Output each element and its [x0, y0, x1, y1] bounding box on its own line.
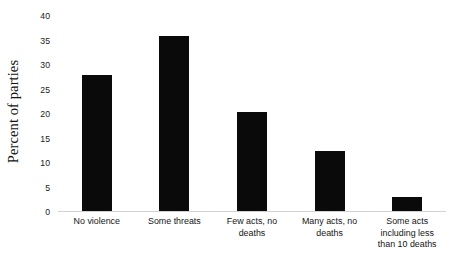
- bar[interactable]: [237, 112, 267, 212]
- bar-slot: [58, 16, 136, 212]
- x-axis-category-label: Some actsincluding lessthan 10 deaths: [368, 216, 446, 251]
- x-axis-category-label-line: Some threats: [136, 216, 214, 228]
- x-axis-category-label-line: Few acts, no: [213, 216, 291, 228]
- y-axis-tick-label: 40: [40, 11, 50, 21]
- y-axis-tick-label: 30: [40, 60, 50, 70]
- y-axis-tick-label: 20: [40, 109, 50, 119]
- bar[interactable]: [392, 197, 422, 212]
- bar-slot: [291, 16, 369, 212]
- x-axis-category-label-line: including less: [368, 228, 446, 240]
- x-axis-category-label: Few acts, nodeaths: [213, 216, 291, 239]
- bar-slot: [368, 16, 446, 212]
- x-axis-baseline: [58, 211, 446, 212]
- x-axis-category-label-line: than 10 deaths: [368, 239, 446, 251]
- bar[interactable]: [82, 75, 112, 212]
- bar-chart-figure: Percent of parties 4035302520151050 No v…: [0, 0, 451, 267]
- x-axis-category-label-line: Some acts: [368, 216, 446, 228]
- y-axis-title: Percent of parties: [0, 0, 28, 222]
- y-axis-tick-label: 25: [40, 85, 50, 95]
- x-axis-category-label-line: No violence: [58, 216, 136, 228]
- x-axis-category-label: Many acts, nodeaths: [291, 216, 369, 239]
- x-axis-category-label-line: Many acts, no: [291, 216, 369, 228]
- bar-slot: [136, 16, 214, 212]
- plot-area: [58, 16, 446, 212]
- x-axis-category-labels: No violenceSome threatsFew acts, nodeath…: [58, 216, 446, 267]
- y-axis-tick-label: 0: [45, 207, 50, 217]
- x-axis-category-label-line: deaths: [213, 228, 291, 240]
- y-axis-tick-label: 15: [40, 134, 50, 144]
- x-axis-category-label-line: deaths: [291, 228, 369, 240]
- y-axis-tick-labels: 4035302520151050: [28, 0, 54, 222]
- x-axis-category-label: No violence: [58, 216, 136, 228]
- y-axis-tick-label: 35: [40, 36, 50, 46]
- y-axis-tick-label: 5: [45, 183, 50, 193]
- y-axis-tick-label: 10: [40, 158, 50, 168]
- x-axis-category-label: Some threats: [136, 216, 214, 228]
- y-axis-title-text: Percent of parties: [6, 59, 23, 162]
- bar[interactable]: [159, 36, 189, 212]
- bar[interactable]: [315, 151, 345, 212]
- bar-slot: [213, 16, 291, 212]
